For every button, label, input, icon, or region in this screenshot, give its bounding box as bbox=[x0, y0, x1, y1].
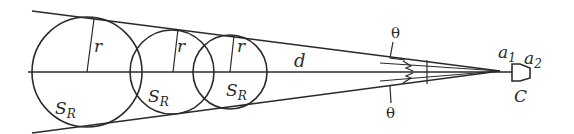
radius-label-2: r bbox=[177, 36, 186, 56]
inner-cone-upper bbox=[380, 63, 500, 71]
theta-leader-bottom bbox=[390, 86, 391, 103]
break-mark-lower bbox=[403, 73, 413, 83]
sphere-label-3: SR bbox=[226, 80, 247, 103]
sphere-label-1: SR bbox=[55, 98, 76, 121]
radius-line-1 bbox=[87, 19, 94, 72]
distance-label: d bbox=[294, 50, 306, 71]
radius-line-3 bbox=[230, 36, 234, 72]
camera-label: C bbox=[514, 86, 527, 106]
radius-label-1: r bbox=[94, 36, 103, 56]
a1-label: a1 bbox=[498, 42, 516, 65]
radius-label-3: r bbox=[237, 36, 246, 56]
angle-label-top: θ bbox=[391, 24, 400, 42]
break-mark-upper bbox=[403, 61, 413, 71]
angle-label-bottom: θ bbox=[386, 104, 395, 122]
diagram-canvas: r r r SR SR SR d θ θ a1 a2 C bbox=[0, 0, 574, 134]
sphere-label-2: SR bbox=[148, 86, 169, 109]
cone-diagram: r r r SR SR SR d θ θ a1 a2 C bbox=[0, 0, 574, 134]
a2-label: a2 bbox=[524, 48, 542, 71]
